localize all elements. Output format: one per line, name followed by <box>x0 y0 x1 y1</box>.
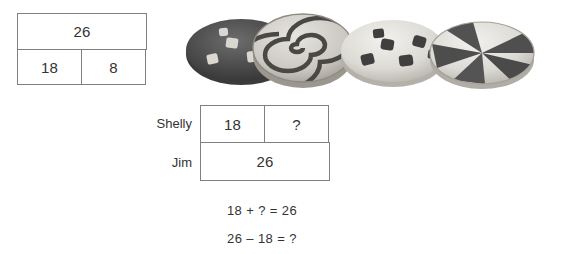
sugar-cookie-with-dark-chips <box>341 20 445 87</box>
comparison-row-label-jim: Jim <box>72 155 192 170</box>
comparison-row-label-shelly: Shelly <box>72 116 192 131</box>
shelly-known-cell: 18 <box>200 105 265 143</box>
part-value-cell-1: 18 <box>17 49 82 85</box>
equation-subtraction: 26 – 18 = ? <box>162 231 362 246</box>
comparison-bar-model: 18 ? 26 <box>200 105 330 181</box>
shelly-unknown-cell: ? <box>264 105 329 143</box>
cookies-svg <box>185 6 537 90</box>
jim-row: 26 <box>200 142 330 181</box>
worksheet-canvas: 26 18 8 <box>0 0 564 254</box>
whole-part-bar-model: 26 18 8 <box>17 13 147 85</box>
shelly-row: 18 ? <box>200 105 330 143</box>
jim-total-cell: 26 <box>200 142 330 181</box>
part-value-cell-2: 8 <box>81 49 146 85</box>
pinwheel-cookie <box>430 22 537 89</box>
whole-row: 26 <box>17 13 147 50</box>
equation-addition: 18 + ? = 26 <box>162 203 362 218</box>
cookie-illustration <box>185 6 537 90</box>
whole-value-cell: 26 <box>17 13 147 50</box>
parts-row: 18 8 <box>17 49 147 85</box>
